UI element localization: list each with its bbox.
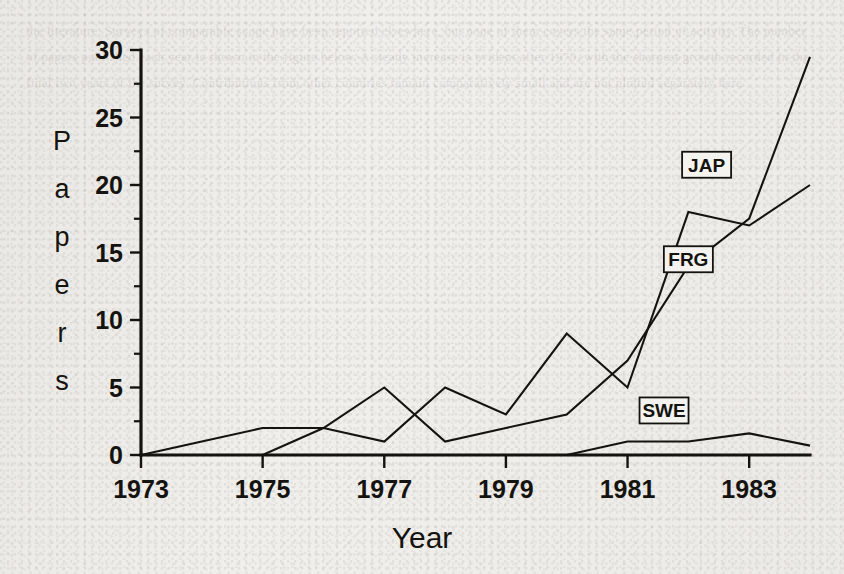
y-axis-title-letter: e bbox=[54, 270, 69, 300]
y-axis-title: Papers bbox=[53, 126, 71, 396]
x-tick-label: 1983 bbox=[721, 475, 777, 503]
x-tick-label: 1977 bbox=[356, 475, 412, 503]
x-tick-label: 1979 bbox=[478, 475, 534, 503]
x-tick-label: 1973 bbox=[113, 475, 169, 503]
series-label-text: SWE bbox=[642, 400, 685, 421]
y-tick-label: 10 bbox=[95, 306, 123, 334]
y-tick-label: 0 bbox=[109, 441, 123, 469]
x-axis-tick-labels: 197319751977197919811983 bbox=[113, 475, 777, 503]
x-axis-ticks bbox=[141, 455, 749, 468]
series-label-text: FRG bbox=[668, 249, 708, 270]
y-axis-ticks bbox=[130, 50, 141, 455]
y-tick-label: 15 bbox=[95, 239, 123, 267]
x-tick-label: 1981 bbox=[600, 475, 656, 503]
x-axis-title: Year bbox=[392, 521, 453, 554]
y-tick-label: 30 bbox=[95, 36, 123, 64]
y-axis-title-letter: p bbox=[54, 222, 69, 252]
y-axis-title-letter: P bbox=[53, 126, 71, 156]
y-axis-title-letter: s bbox=[55, 366, 69, 396]
y-tick-label: 20 bbox=[95, 171, 123, 199]
series-label-frg: FRG bbox=[664, 246, 713, 272]
y-axis-title-letter: r bbox=[58, 318, 67, 348]
series-line-swe bbox=[141, 433, 810, 455]
y-axis-title-letter: a bbox=[54, 174, 70, 204]
series-line-frg bbox=[141, 185, 810, 455]
x-tick-label: 1975 bbox=[235, 475, 291, 503]
series-labels: JAPFRGSWE bbox=[640, 152, 732, 424]
line-chart: 051015202530 197319751977197919811983 Pa… bbox=[0, 0, 844, 574]
y-axis-tick-labels: 051015202530 bbox=[95, 36, 123, 469]
y-tick-label: 5 bbox=[109, 374, 123, 402]
series-label-jap: JAP bbox=[682, 152, 731, 178]
series-label-text: JAP bbox=[688, 155, 725, 176]
series-label-swe: SWE bbox=[640, 397, 689, 423]
y-tick-label: 25 bbox=[95, 104, 123, 132]
